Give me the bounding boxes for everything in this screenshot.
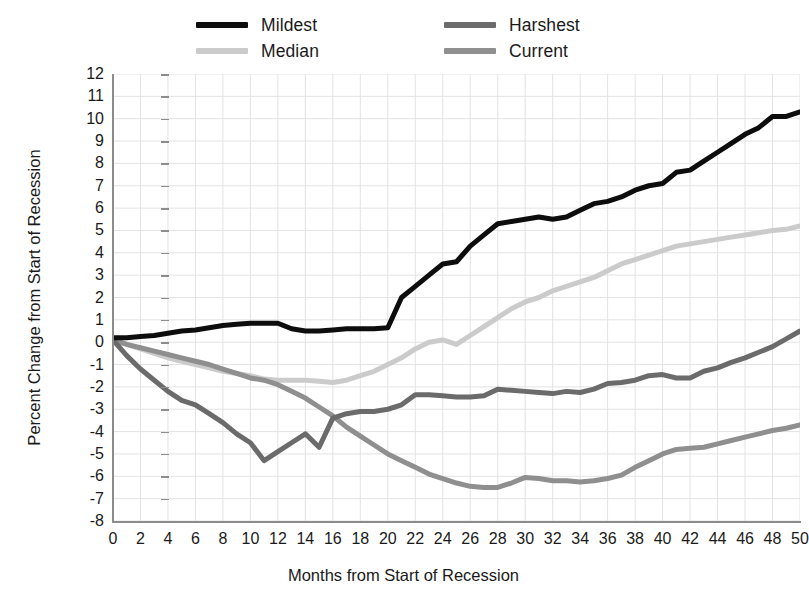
series-line-harshest	[113, 331, 800, 461]
y-tick-mark	[161, 96, 169, 98]
x-tick-label: 12	[269, 531, 287, 547]
plot-area	[113, 74, 800, 521]
x-tick-label: 48	[764, 531, 782, 547]
y-tick-label: 11	[60, 88, 104, 104]
x-tick-label: 28	[489, 531, 507, 547]
x-tick-label: 4	[164, 531, 173, 547]
legend-swatch-harshest	[444, 22, 496, 28]
x-tick-label: 8	[218, 531, 227, 547]
y-tick-mark	[161, 342, 169, 344]
x-tick-label: 16	[324, 531, 342, 547]
x-tick-label: 40	[654, 531, 672, 547]
x-tick-label: 42	[681, 531, 699, 547]
y-tick-mark	[161, 409, 169, 411]
y-tick-mark	[161, 387, 169, 389]
y-tick-mark	[161, 208, 169, 210]
y-tick-mark	[161, 141, 169, 143]
y-tick-label: -5	[60, 446, 104, 462]
chart-legend: Mildest Median Harshest Current	[196, 14, 636, 66]
y-tick-label: -4	[60, 424, 104, 440]
legend-item-mildest: Mildest	[196, 14, 317, 36]
y-tick-mark	[161, 186, 169, 188]
x-tick-label: 30	[516, 531, 534, 547]
x-tick-label: 10	[241, 531, 259, 547]
x-tick-label: 38	[626, 531, 644, 547]
y-tick-mark	[161, 253, 169, 255]
y-axis-spine	[112, 74, 114, 522]
x-tick-label: 50	[791, 531, 809, 547]
x-tick-label: 36	[599, 531, 617, 547]
y-tick-label: -2	[60, 379, 104, 395]
x-tick-label: 22	[406, 531, 424, 547]
legend-item-harshest: Harshest	[444, 14, 580, 36]
legend-item-median: Median	[196, 40, 319, 62]
legend-swatch-mildest	[196, 22, 248, 28]
legend-swatch-current	[444, 48, 496, 54]
y-tick-label: -7	[60, 491, 104, 507]
series-line-mildest	[113, 112, 800, 338]
y-tick-label: 4	[60, 245, 104, 261]
y-tick-label: 2	[60, 290, 104, 306]
x-tick-label: 2	[136, 531, 145, 547]
y-axis-tick-labels: -8-7-6-5-4-3-2-10123456789101112	[56, 0, 104, 600]
y-tick-label: -1	[60, 357, 104, 373]
y-tick-mark	[161, 119, 169, 121]
plot-svg	[113, 74, 800, 521]
y-tick-label: -6	[60, 468, 104, 484]
legend-swatch-median	[196, 48, 248, 54]
y-tick-label: 10	[60, 111, 104, 127]
y-tick-mark	[161, 476, 169, 478]
y-tick-label: 6	[60, 200, 104, 216]
y-tick-label: 1	[60, 312, 104, 328]
y-tick-mark	[161, 499, 169, 501]
legend-label-median: Median	[261, 41, 319, 62]
y-tick-mark	[161, 521, 169, 523]
x-tick-label: 26	[461, 531, 479, 547]
series-line-median	[113, 226, 800, 382]
x-tick-label: 0	[109, 531, 118, 547]
x-tick-label: 18	[351, 531, 369, 547]
x-tick-label: 32	[544, 531, 562, 547]
y-tick-label: 7	[60, 178, 104, 194]
x-tick-label: 14	[296, 531, 314, 547]
y-tick-mark	[161, 163, 169, 165]
y-tick-mark	[161, 74, 169, 76]
x-tick-label: 24	[434, 531, 452, 547]
y-tick-mark	[161, 275, 169, 277]
y-tick-label: -8	[60, 513, 104, 529]
y-tick-label: 8	[60, 155, 104, 171]
y-tick-mark	[161, 454, 169, 456]
x-axis-tick-labels: 0246810121416182022242628303234363840424…	[0, 531, 807, 553]
legend-label-harshest: Harshest	[509, 15, 580, 36]
gridlines	[113, 74, 800, 521]
x-axis-spine	[112, 521, 801, 523]
x-tick-label: 44	[709, 531, 727, 547]
x-tick-label: 34	[571, 531, 589, 547]
x-tick-label: 46	[736, 531, 754, 547]
y-tick-mark	[161, 320, 169, 322]
legend-item-current: Current	[444, 40, 568, 62]
y-tick-mark	[161, 365, 169, 367]
series-line-current	[113, 340, 800, 488]
y-tick-label: 3	[60, 267, 104, 283]
legend-label-current: Current	[509, 41, 568, 62]
y-tick-label: 5	[60, 222, 104, 238]
y-tick-label: -3	[60, 401, 104, 417]
y-tick-label: 9	[60, 133, 104, 149]
y-axis-title: Percent Change from Start of Recession	[25, 118, 44, 478]
y-tick-label: 12	[60, 66, 104, 82]
x-axis-title: Months from Start of Recession	[0, 566, 807, 585]
y-tick-mark	[161, 432, 169, 434]
x-tick-label: 6	[191, 531, 200, 547]
x-tick-label: 20	[379, 531, 397, 547]
y-tick-mark	[161, 230, 169, 232]
legend-label-mildest: Mildest	[261, 15, 317, 36]
y-tick-label: 0	[60, 334, 104, 350]
y-tick-mark	[161, 298, 169, 300]
